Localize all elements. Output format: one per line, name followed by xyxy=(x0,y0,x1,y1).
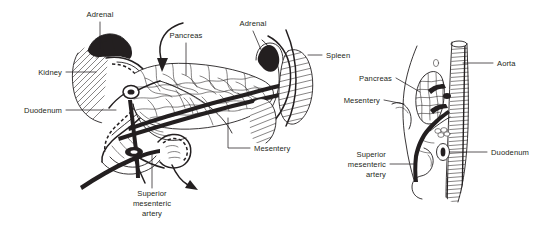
label-mesentery-left: Mesentery xyxy=(254,144,290,153)
label-pancreas-left: Pancreas xyxy=(170,31,203,40)
label-pancreas-right: Pancreas xyxy=(359,74,392,83)
label-sma-left-line2: mesenteric xyxy=(133,199,171,208)
leader-adrenal-right xyxy=(253,31,262,52)
mesentery-structure-right xyxy=(392,46,417,180)
label-adrenal-right: Adrenal xyxy=(240,19,267,28)
right-panel-artwork xyxy=(392,41,470,203)
label-mesentery-right: Mesentery xyxy=(344,96,380,105)
anatomical-figure: Adrenal Pancreas Adrenal Kidney Duodenum… xyxy=(0,0,534,230)
label-adrenal-left: Adrenal xyxy=(87,10,114,19)
label-spleen: Spleen xyxy=(326,51,350,60)
label-aorta: Aorta xyxy=(497,59,516,68)
label-duodenum-right: Duodenum xyxy=(491,148,529,157)
aorta-structure xyxy=(444,41,470,203)
label-duodenum-left: Duodenum xyxy=(24,106,62,115)
label-sma-left-line3: artery xyxy=(142,209,162,218)
label-sma-left-line1: Superior xyxy=(137,189,167,198)
label-sma-right-line1: Superior xyxy=(356,150,386,159)
vessel-cross-section-marker xyxy=(433,59,438,66)
mesentery-arrow xyxy=(172,165,198,190)
label-kidney: Kidney xyxy=(38,68,62,77)
leader-pancreas-right xyxy=(396,78,420,92)
adrenal-gland-left xyxy=(88,34,132,60)
label-sma-right-line3: artery xyxy=(366,170,386,179)
figure-canvas: Adrenal Pancreas Adrenal Kidney Duodenum… xyxy=(0,0,534,230)
duodenum-structure-right xyxy=(437,144,450,161)
duodenojejunal-loop xyxy=(158,134,191,168)
bowel-loop-cluster xyxy=(435,128,450,138)
label-sma-right-line2: mesenteric xyxy=(348,160,386,169)
